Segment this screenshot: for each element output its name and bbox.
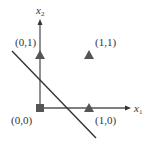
x-axis-label: x1 [133, 102, 143, 116]
triangle-marker-0-1 [35, 50, 45, 59]
point-label-0-1: (0,1) [15, 36, 36, 49]
point-label-0-0: (0,0) [11, 114, 32, 127]
point-label-1-1: (1,1) [95, 36, 116, 49]
y-axis-arrow-icon [38, 19, 43, 25]
triangle-marker-1-1 [84, 50, 94, 59]
diagram-canvas: x2 x1 (0,1) (1,1) (0,0) (1,0) [0, 0, 152, 149]
point-label-1-0: (1,0) [95, 114, 116, 127]
square-marker-0-0 [36, 104, 44, 112]
y-axis-label: x2 [35, 4, 45, 18]
x-axis-arrow-icon [125, 106, 131, 111]
